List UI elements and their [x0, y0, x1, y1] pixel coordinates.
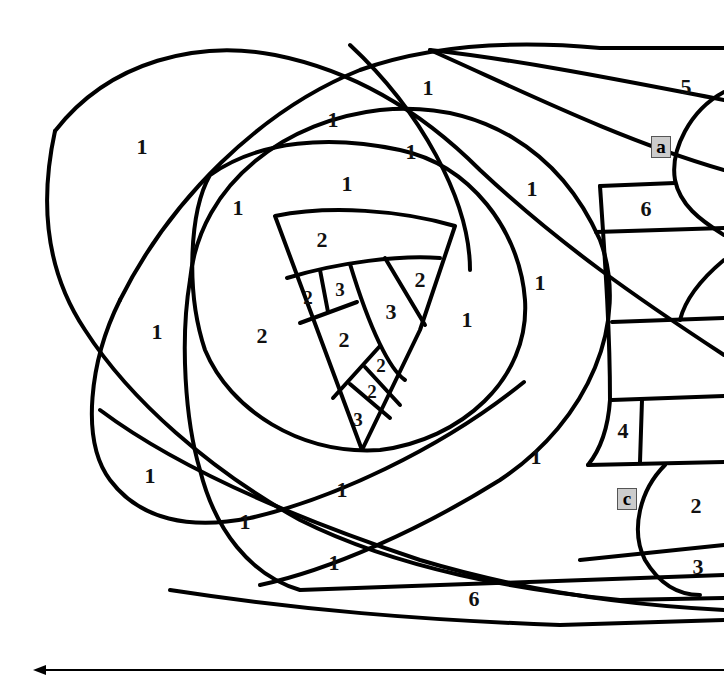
- region-number-label: 2: [415, 269, 426, 291]
- region-number-label: 1: [535, 272, 546, 294]
- line-art-canvas: [0, 0, 724, 676]
- region-number-label: 1: [137, 136, 148, 158]
- region-number-label: 1: [342, 173, 353, 195]
- region-number-label: 2: [257, 325, 268, 347]
- region-number-label: 1: [531, 446, 542, 468]
- region-number-label: 2: [376, 356, 386, 375]
- region-number-label: 1: [328, 109, 339, 131]
- region-number-label: 3: [353, 410, 363, 429]
- region-number-label: 4: [618, 420, 629, 442]
- region-number-label: 3: [693, 556, 704, 578]
- region-number-label: 2: [691, 495, 702, 517]
- region-number-label: 1: [337, 479, 348, 501]
- region-number-label: 1: [152, 321, 163, 343]
- region-number-label: 1: [233, 197, 244, 219]
- region-number-label: 1: [329, 552, 340, 574]
- region-number-label: 5: [681, 76, 692, 98]
- region-number-label: 1: [406, 141, 417, 163]
- region-number-label: 1: [145, 465, 156, 487]
- region-tag-c: c: [617, 488, 637, 510]
- region-number-label: 2: [303, 288, 313, 307]
- region-number-label: 1: [462, 309, 473, 331]
- region-number-label: 3: [386, 301, 397, 323]
- region-number-label: 1: [240, 511, 251, 533]
- region-number-label: 1: [423, 77, 434, 99]
- region-number-label: 3: [335, 280, 345, 299]
- region-tag-a: a: [651, 136, 671, 158]
- region-number-label: 2: [317, 229, 328, 251]
- region-number-label: 1: [527, 178, 538, 200]
- center-triangle: [275, 210, 455, 450]
- region-number-label: 2: [339, 329, 350, 351]
- region-number-label: 6: [469, 588, 480, 610]
- region-number-label: 6: [641, 198, 652, 220]
- region-number-label: 2: [367, 382, 377, 401]
